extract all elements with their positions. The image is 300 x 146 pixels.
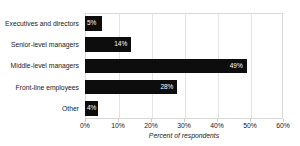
x-tick-label: 0% <box>70 122 100 129</box>
x-tick-label: 50% <box>235 122 265 129</box>
bar-value-label: 28% <box>85 80 177 95</box>
x-tick-label: 40% <box>202 122 232 129</box>
category-axis: Executives and directorsSenior-level man… <box>0 13 82 119</box>
bar-row: 5% <box>85 13 283 34</box>
bar-row: 28% <box>85 77 283 98</box>
category-label: Senior-level managers <box>11 34 79 55</box>
category-label: Other <box>62 98 79 119</box>
bar-row: 49% <box>85 55 283 76</box>
bar-value-label: 5% <box>85 16 102 31</box>
chart-title <box>0 0 300 4</box>
category-label: Executives and directors <box>5 13 79 34</box>
bar-row: 4% <box>85 98 283 119</box>
category-label: Front-line employees <box>16 77 79 98</box>
bar-chart: Executives and directorsSenior-level man… <box>0 0 300 146</box>
bar-row: 14% <box>85 34 283 55</box>
bar-value-label: 4% <box>85 101 98 116</box>
x-tick-label: 30% <box>169 122 199 129</box>
category-label: Middle-level managers <box>11 55 79 76</box>
x-tick-label: 60% <box>268 122 298 129</box>
x-tick-label: 20% <box>136 122 166 129</box>
x-axis-ticks: 0%10%20%30%40%50%60% <box>85 119 283 133</box>
bar-value-label: 14% <box>85 37 131 52</box>
bar-value-label: 49% <box>85 59 247 74</box>
x-axis-title: Percent of respondents <box>85 132 283 139</box>
x-tick-label: 10% <box>103 122 133 129</box>
bars-layer: 5%14%49%28%4% <box>85 13 283 119</box>
